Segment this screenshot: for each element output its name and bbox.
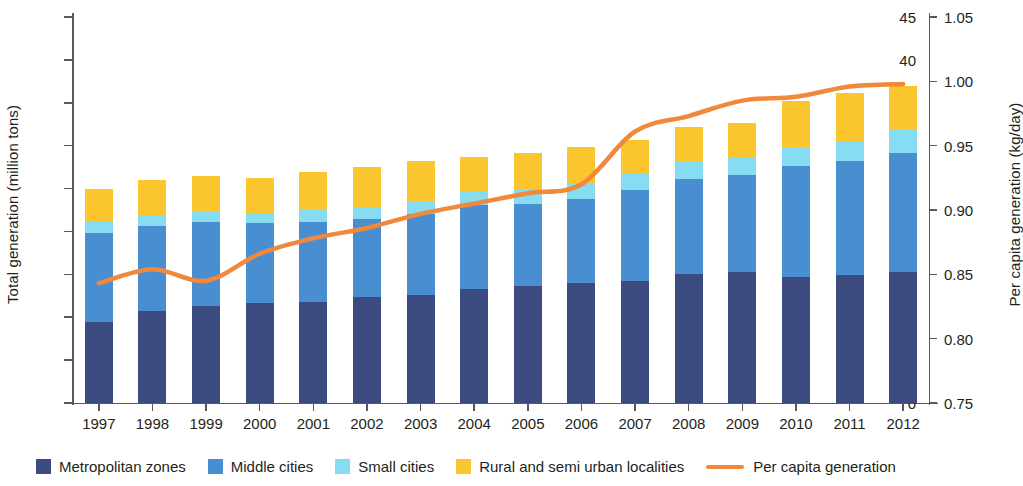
x-tick	[205, 403, 207, 411]
line-path	[99, 84, 903, 283]
x-tick	[152, 403, 154, 411]
legend-item-4[interactable]: Per capita generation	[706, 458, 896, 475]
x-tick-label-2002: 2002	[350, 415, 383, 432]
x-tick	[688, 403, 690, 411]
x-tick-label-1998: 1998	[136, 415, 169, 432]
y-tick-right	[929, 402, 937, 404]
x-tick-label-2004: 2004	[458, 415, 491, 432]
x-tick	[259, 403, 261, 411]
y-tick-left	[64, 145, 72, 147]
y-tick-right	[929, 209, 937, 211]
x-tick-label-2008: 2008	[672, 415, 705, 432]
legend-swatch-icon	[335, 459, 350, 474]
y-tick-label-right: 0.80	[944, 330, 973, 347]
legend-swatch-icon	[36, 459, 51, 474]
x-tick-label-1997: 1997	[82, 415, 115, 432]
y-tick-right	[929, 81, 937, 83]
y-tick-left	[64, 316, 72, 318]
x-tick	[366, 403, 368, 411]
y-tick-left	[64, 59, 72, 61]
y-axis-right-title: Per capita generation (kg/day)	[1006, 45, 1023, 365]
x-tick	[581, 403, 583, 411]
x-tick-label-2005: 2005	[511, 415, 544, 432]
x-tick-label-2011: 2011	[833, 415, 865, 432]
legend-item-2[interactable]: Small cities	[335, 458, 434, 475]
x-tick	[902, 403, 904, 411]
y-tick-label-right: 0.85	[944, 266, 973, 283]
plot-area: 051015202530354045 0.750.800.850.900.951…	[72, 17, 930, 403]
per-capita-line	[72, 17, 930, 403]
y-tick-label-right: 1.05	[944, 9, 973, 26]
x-tick	[420, 403, 422, 411]
x-tick	[634, 403, 636, 411]
y-tick-label-right: 1.00	[944, 73, 973, 90]
x-tick	[795, 403, 797, 411]
y-tick-right	[929, 274, 937, 276]
x-tick-label-2010: 2010	[779, 415, 812, 432]
y-tick-left	[64, 102, 72, 104]
x-tick	[742, 403, 744, 411]
x-tick	[473, 403, 475, 411]
x-tick	[849, 403, 851, 411]
legend-label: Per capita generation	[753, 458, 896, 475]
legend-item-1[interactable]: Middle cities	[208, 458, 314, 475]
y-tick-left	[64, 188, 72, 190]
y-tick-left	[64, 274, 72, 276]
legend-swatch-icon	[456, 459, 471, 474]
x-tick-label-1999: 1999	[189, 415, 222, 432]
legend-label: Middle cities	[231, 458, 314, 475]
legend-line-marker	[706, 465, 744, 469]
y-tick-left	[64, 16, 72, 18]
x-tick-label-2012: 2012	[887, 415, 920, 432]
legend-label: Metropolitan zones	[59, 458, 186, 475]
y-tick-left	[64, 231, 72, 233]
legend-label: Rural and semi urban localities	[479, 458, 684, 475]
x-tick-label-2000: 2000	[243, 415, 276, 432]
y-tick-left	[64, 402, 72, 404]
y-tick-label-right: 0.90	[944, 202, 973, 219]
y-tick-right	[929, 338, 937, 340]
legend-label: Small cities	[358, 458, 434, 475]
legend-item-0[interactable]: Metropolitan zones	[36, 458, 186, 475]
x-tick-label-2001: 2001	[297, 415, 330, 432]
x-tick	[98, 403, 100, 411]
y-axis-left-title: Total generation (million tons)	[4, 45, 21, 365]
y-tick-label-right: 0.95	[944, 137, 973, 154]
chart-legend: Metropolitan zonesMiddle citiesSmall cit…	[36, 458, 918, 475]
y-tick-left	[64, 359, 72, 361]
x-tick	[527, 403, 529, 411]
x-tick-label-2003: 2003	[404, 415, 437, 432]
y-tick-right	[929, 145, 937, 147]
x-tick-label-2006: 2006	[565, 415, 598, 432]
y-tick-right	[929, 16, 937, 18]
x-tick-label-2007: 2007	[618, 415, 651, 432]
legend-item-3[interactable]: Rural and semi urban localities	[456, 458, 684, 475]
y-tick-label-right: 0.75	[944, 395, 973, 412]
x-tick-label-2009: 2009	[726, 415, 759, 432]
legend-swatch-icon	[208, 459, 223, 474]
x-tick	[313, 403, 315, 411]
